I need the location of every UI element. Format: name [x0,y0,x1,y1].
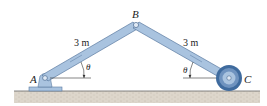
pin-b [133,22,138,27]
length-label-ab: 3 m [74,37,90,48]
label-point-b: B [132,8,139,20]
pin-a [43,76,48,81]
ground [14,91,260,103]
angle-label-c: θ [183,65,188,75]
member-ab [42,22,139,81]
length-label-bc: 3 m [183,37,199,48]
roller-wheel-c [216,65,242,91]
label-point-a: A [29,73,37,85]
label-point-c: C [244,73,252,85]
mechanism-diagram: A B C 3 m 3 m θ θ [0,0,267,106]
angle-label-a: θ [86,62,91,72]
